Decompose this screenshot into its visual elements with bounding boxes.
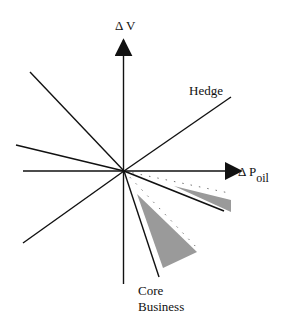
shaded-sliver-right [174, 186, 231, 212]
ray-dotted-right [124, 171, 229, 193]
x-axis-label: Δ Poil [238, 165, 269, 179]
ray-lower-left [23, 171, 124, 243]
exposure-diagram [0, 0, 291, 324]
hedge-label: Hedge [189, 84, 223, 98]
ray-right-lower [124, 171, 224, 211]
core-business-label-line1: Core [138, 284, 163, 298]
y-axis-label: Δ V [115, 19, 135, 33]
ray-hedge [124, 97, 231, 171]
shaded-wedge-core [137, 194, 197, 268]
ray-left-shallow [16, 145, 124, 171]
x-axis-label-main: Δ P [238, 164, 256, 179]
x-axis-label-subscript: oil [256, 171, 269, 185]
core-business-label-line2: Business [138, 300, 184, 314]
ray-upper-left [30, 72, 124, 171]
